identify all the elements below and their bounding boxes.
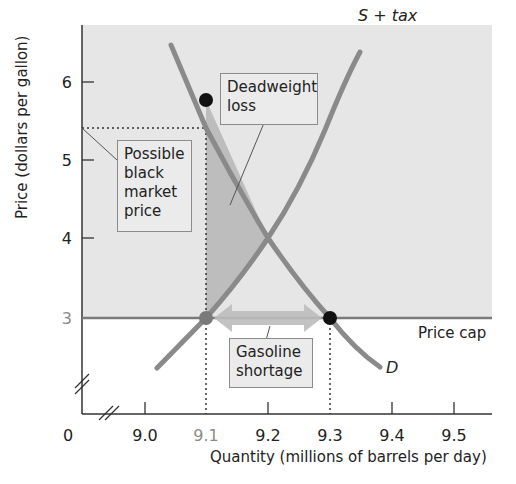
x-tick-9-5: 9.5 <box>434 426 474 445</box>
shortage-text-2: shortage <box>236 362 306 381</box>
y-tick-5: 5 <box>52 151 72 170</box>
supply-at-cap-point <box>199 311 213 325</box>
y-tick-4: 4 <box>52 229 72 248</box>
black-market-point <box>199 93 213 107</box>
supply-curve-label: S + tax <box>358 8 417 24</box>
deadweight-text-1: Deadweight <box>227 78 311 97</box>
black-market-text-4: price <box>124 202 185 221</box>
demand-curve-label: D <box>386 360 398 376</box>
x-axis-label: Quantity (millions of barrels per day) <box>210 450 487 465</box>
y-axis-label: Price (dollars per gallon) <box>13 39 31 219</box>
x-tick-9-1: 9.1 <box>186 426 226 445</box>
x-tick-9-2: 9.2 <box>248 426 288 445</box>
black-market-text-2: black <box>124 164 185 183</box>
deadweight-loss-box: Deadweight loss <box>220 73 318 125</box>
x-tick-0: 0 <box>48 426 88 445</box>
y-tick-3: 3 <box>52 309 72 328</box>
black-market-box: Possible black market price <box>117 140 192 232</box>
x-tick-9-0: 9.0 <box>125 426 165 445</box>
black-market-text-1: Possible <box>124 145 185 164</box>
deadweight-text-2: loss <box>227 97 311 116</box>
demand-at-cap-point <box>323 311 337 325</box>
x-ticks <box>145 402 454 414</box>
price-cap-label: Price cap <box>418 326 486 341</box>
gasoline-shortage-box: Gasoline shortage <box>229 338 313 388</box>
y-tick-6: 6 <box>52 73 72 92</box>
black-market-text-3: market <box>124 183 185 202</box>
x-tick-9-3: 9.3 <box>310 426 350 445</box>
x-axis-break <box>99 406 119 420</box>
x-tick-9-4: 9.4 <box>372 426 412 445</box>
shortage-text-1: Gasoline <box>236 343 306 362</box>
